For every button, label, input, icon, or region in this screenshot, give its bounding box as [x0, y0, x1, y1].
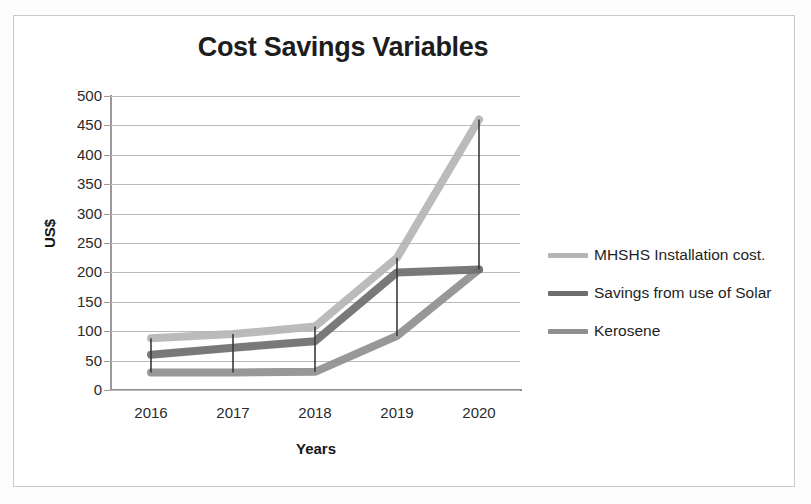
- gridline: [110, 361, 520, 362]
- chart-page: Cost Savings Variables 50045040035030025…: [0, 0, 811, 504]
- x-tick-label: 2017: [198, 404, 268, 421]
- gridline: [110, 214, 520, 215]
- gridline: [110, 272, 520, 273]
- legend-swatch-icon: [548, 329, 588, 334]
- y-tick-label: 200: [60, 263, 102, 280]
- y-tick-mark: [104, 361, 110, 362]
- legend-label: MHSHS Installation cost.: [594, 246, 765, 264]
- legend-item[interactable]: MHSHS Installation cost.: [548, 236, 798, 274]
- y-axis-title: US$: [41, 179, 58, 289]
- x-tick-label: 2019: [362, 404, 432, 421]
- y-tick-mark: [104, 125, 110, 126]
- y-tick-label: 400: [60, 146, 102, 163]
- gridline: [110, 302, 520, 303]
- legend-swatch-icon: [548, 253, 588, 258]
- gridline: [110, 390, 520, 391]
- legend-item[interactable]: Savings from use of Solar: [548, 274, 798, 312]
- y-tick-mark: [104, 272, 110, 273]
- y-tick-mark: [104, 184, 110, 185]
- y-tick-mark: [104, 243, 110, 244]
- y-tick-mark: [104, 155, 110, 156]
- gridline: [110, 125, 520, 126]
- y-tick-label: 300: [60, 205, 102, 222]
- y-tick-mark: [104, 390, 110, 391]
- y-tick-mark: [104, 302, 110, 303]
- y-tick-mark: [104, 214, 110, 215]
- gridline: [110, 243, 520, 244]
- x-tick-label: 2018: [280, 404, 350, 421]
- y-tick-label: 450: [60, 116, 102, 133]
- y-tick-mark: [104, 96, 110, 97]
- y-tick-label: 100: [60, 322, 102, 339]
- legend-swatch-icon: [548, 291, 588, 296]
- y-tick-label: 500: [60, 87, 102, 104]
- plot-area: [110, 96, 520, 390]
- y-tick-mark: [104, 331, 110, 332]
- y-tick-label: 350: [60, 175, 102, 192]
- gridline: [110, 184, 520, 185]
- x-axis-title: Years: [110, 440, 522, 457]
- legend-label: Kerosene: [594, 322, 660, 340]
- y-tick-label: 150: [60, 293, 102, 310]
- x-tick-label: 2020: [444, 404, 514, 421]
- y-tick-label: 0: [60, 381, 102, 398]
- gridline: [110, 331, 520, 332]
- y-tick-label: 250: [60, 234, 102, 251]
- gridline: [110, 96, 520, 97]
- gridline: [110, 155, 520, 156]
- legend-label: Savings from use of Solar: [594, 284, 771, 302]
- chart-legend: MHSHS Installation cost.Savings from use…: [548, 236, 798, 350]
- chart-title: Cost Savings Variables: [13, 32, 673, 63]
- y-tick-label: 50: [60, 352, 102, 369]
- y-tick-label-group: 500450400350300250200150100500: [54, 96, 102, 390]
- legend-item[interactable]: Kerosene: [548, 312, 798, 350]
- x-tick-label: 2016: [116, 404, 186, 421]
